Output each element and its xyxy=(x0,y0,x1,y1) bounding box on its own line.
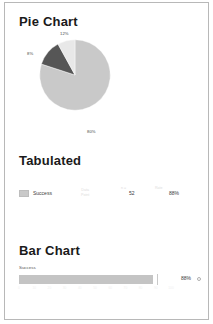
bar-chart-title: Bar Chart xyxy=(19,243,80,258)
tabulated-title: Tabulated xyxy=(19,153,81,168)
bar-value-label: 88% xyxy=(181,275,191,281)
bar-x-tick-label: 60 xyxy=(108,286,112,290)
bar-chart-graphic: Success 0102030405060708090100 xyxy=(19,273,171,303)
pie-svg xyxy=(39,39,111,111)
table-cell-count-header: n = xyxy=(121,186,126,191)
table-cell-datapoint-header: Data Point xyxy=(81,188,89,197)
bar-x-tick-label: 40 xyxy=(78,286,82,290)
series-name-label: Success xyxy=(33,190,52,196)
bar-x-tick-label: 90 xyxy=(154,286,158,290)
bar-chart-section: Bar Chart Success 0102030405060708090100… xyxy=(5,233,208,320)
tabulated-section: Tabulated Success Data Point n = 52 Rate… xyxy=(5,125,208,233)
bar-x-tick-label: 10 xyxy=(32,286,36,290)
pie-chart-graphic: 80% 12% 8% xyxy=(39,39,111,111)
series-color-swatch xyxy=(19,190,29,197)
bar-track xyxy=(19,275,171,284)
bar-x-axis: 0102030405060708090100 xyxy=(19,286,171,294)
count-value: 52 xyxy=(129,190,135,196)
bar-x-tick-label: 50 xyxy=(93,286,97,290)
pie-chart-title: Pie Chart xyxy=(19,14,78,29)
bar-fill xyxy=(19,275,153,284)
report-panel: Pie Chart 80% 12% 8% Tabulated Success D… xyxy=(4,2,209,320)
bar-x-tick-label: 0 xyxy=(18,286,20,290)
bar-x-tick-label: 30 xyxy=(63,286,67,290)
table-cell-percent: 88% xyxy=(169,183,179,203)
bar-series-label: Success xyxy=(19,265,36,270)
bar-x-tick-label: 20 xyxy=(48,286,52,290)
table-cell-series: Success xyxy=(19,183,52,203)
pie-slice-label-2: 8% xyxy=(27,51,33,56)
pie-chart-section: Pie Chart 80% 12% 8% xyxy=(5,3,208,125)
datapoint-header-line2: Point xyxy=(81,193,89,198)
bar-error-tick xyxy=(157,274,158,285)
circle-icon xyxy=(197,277,201,281)
table-cell-rate-header: Rate xyxy=(155,186,163,191)
pie-slice-label-1: 12% xyxy=(60,31,69,36)
table-cell-count: 52 xyxy=(129,183,135,203)
bar-x-tick-label: 70 xyxy=(124,286,128,290)
percent-value: 88% xyxy=(169,190,179,196)
datapoint-header-line1: Data xyxy=(81,188,89,193)
bar-x-tick-label: 80 xyxy=(139,286,143,290)
bar-x-tick-label: 100 xyxy=(168,286,173,290)
table-row: Success Data Point n = 52 Rate 88% xyxy=(19,183,197,203)
